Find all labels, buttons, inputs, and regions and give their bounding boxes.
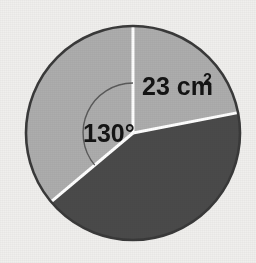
area-label-superscript: 2 bbox=[203, 71, 212, 88]
angle-label: 130° bbox=[83, 119, 135, 147]
circle-sector-diagram: 130° 23 cm 2 bbox=[0, 0, 256, 263]
figure-canvas: 130° 23 cm 2 bbox=[0, 0, 256, 263]
